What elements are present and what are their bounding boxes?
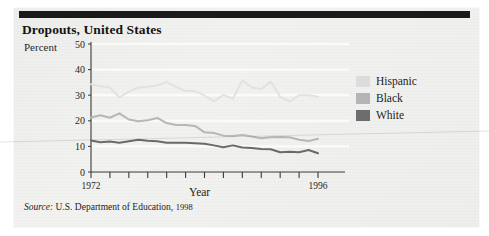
y-tick-label: 0 [80,167,85,178]
legend-label-white: White [376,109,404,121]
legend-item-white: White [356,107,417,123]
x-tick-label: 1972 [82,181,101,191]
figure-page: Dropouts, United States Percent 01020304… [0,0,489,236]
source-keyword: Source: [24,202,53,212]
y-tick-label: 20 [75,115,85,126]
x-tick-label: 1996 [309,181,328,191]
legend-item-black: Black [356,90,417,106]
y-tick-label: 50 [75,39,85,50]
legend-swatch-black [356,93,370,104]
legend-swatch-hispanic [356,76,370,87]
source-note: Source: U.S. Department of Education, 19… [24,202,193,212]
series-line-black [91,113,318,141]
x-axis-title: Year [189,186,210,198]
y-tick-label: 40 [75,64,85,75]
legend-label-black: Black [376,92,403,104]
legend-item-hispanic: Hispanic [356,73,417,89]
source-year: 1998 [176,202,193,212]
legend-swatch-white [356,110,370,121]
legend-label-hispanic: Hispanic [376,75,417,87]
y-tick-label: 30 [75,90,85,101]
y-tick-label: 10 [75,141,85,152]
chart-legend: Hispanic Black White [356,73,417,124]
source-text: U.S. Department of Education, [56,202,174,212]
series-line-hispanic [91,80,318,101]
